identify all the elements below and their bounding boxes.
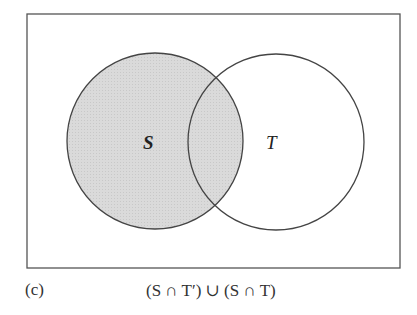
caption-expression: (S ∩ T′) ∪ (S ∩ T) — [146, 280, 276, 301]
set-s-circle — [67, 53, 243, 229]
set-s-label: S — [143, 132, 154, 153]
set-t-label: T — [266, 132, 278, 153]
part-label: (c) — [25, 280, 44, 300]
venn-diagram: S T — [0, 0, 417, 315]
